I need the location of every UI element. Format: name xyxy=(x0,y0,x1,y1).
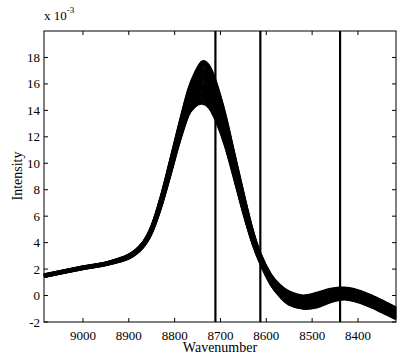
x-tick-label: 9000 xyxy=(70,328,96,343)
y-tick-label: 4 xyxy=(34,235,41,250)
x-axis-label: Wavenumber xyxy=(183,340,258,355)
y-tick-label: 10 xyxy=(27,156,40,171)
y-tick-label: -2 xyxy=(29,315,40,330)
spectra-chart: 9000890088008700860085008400 -2024681012… xyxy=(0,0,409,359)
y-tick-label: 18 xyxy=(27,50,40,65)
y-axis-label: Intensity xyxy=(10,152,25,201)
y-tick-label: 12 xyxy=(27,129,40,144)
plot-frame xyxy=(44,31,396,322)
y-scale-factor: x 10-3 xyxy=(44,5,75,23)
y-tick-label: 0 xyxy=(34,288,41,303)
x-tick-label: 8900 xyxy=(116,328,142,343)
spectra-band xyxy=(44,61,396,319)
y-tick-label: 8 xyxy=(34,182,41,197)
x-tick-label: 8600 xyxy=(253,328,279,343)
y-tick-label: 16 xyxy=(27,76,41,91)
x-tick-label: 8500 xyxy=(299,328,325,343)
x-tick-label: 8400 xyxy=(345,328,371,343)
y-tick-label: 6 xyxy=(34,209,41,224)
y-tick-label: 2 xyxy=(34,262,41,277)
y-tick-label: 14 xyxy=(27,103,41,118)
